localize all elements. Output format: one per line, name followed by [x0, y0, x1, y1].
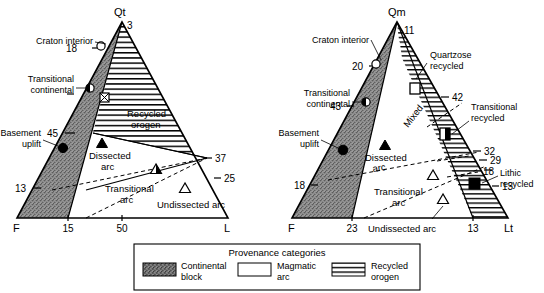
- field-label-recycled-orogen-left-1: Recycled: [127, 108, 166, 119]
- figure-root: Qt 3 18 45 13 15 50 37 25 F L Craton int…: [0, 0, 544, 293]
- callout-quartzose-recycled-1: Quartzose: [430, 50, 472, 60]
- field-label-transitional-arc-right-1: Transitional: [374, 186, 423, 197]
- legend-label-recycled-orogen-2: orogen: [371, 272, 399, 282]
- apex-tick-right: 11: [404, 25, 415, 36]
- callout-basement-uplift-right-2: uplift: [300, 139, 320, 149]
- field-label-undissected-arc-left: Undissected arc: [157, 199, 225, 210]
- field-label-recycled-orogen-left-2: orogen: [131, 119, 161, 130]
- legend: Provenance categories Continental block …: [134, 244, 420, 290]
- undissected-arc-symbol-right: [438, 194, 449, 204]
- field-label-dissected-arc-left-2: arc: [101, 161, 114, 172]
- panel-qt-f-l: Qt 3 18 45 13 15 50 37 25 F L Craton int…: [0, 6, 235, 234]
- field-label-dissected-arc-right-1: Dissected: [365, 152, 407, 163]
- undissected-arc-symbol-left: [180, 183, 191, 193]
- vertex-label-l: L: [224, 222, 230, 234]
- field-label-mixed: Mixed: [401, 102, 425, 129]
- callout-quartzose-recycled-2: recycled: [430, 61, 464, 71]
- legend-label-continental-block-2: block: [181, 272, 203, 282]
- dissected-arc-symbol-right: [380, 140, 391, 150]
- callout-basement-uplift-left-2: uplift: [22, 139, 42, 149]
- callout-transitional-recycled-1: Transitional: [471, 102, 517, 112]
- callout-transitional-continental-left-2: continental: [30, 85, 74, 95]
- provenance-ternary-figure: Qt 3 18 45 13 15 50 37 25 F L Craton int…: [0, 0, 544, 293]
- dissected-arc-symbol-left: [97, 138, 108, 148]
- transitional-arc-symbol-left: [151, 164, 162, 174]
- tick-29-right: 29: [490, 155, 502, 166]
- apex-tick-left: 3: [127, 20, 133, 31]
- field-label-transitional-arc-left-1: Transitional: [105, 183, 154, 194]
- tick-15-left: 15: [62, 223, 74, 234]
- field-label-dissected-arc-left-1: Dissected: [89, 150, 131, 161]
- callout-transitional-continental-right-2: continental: [306, 99, 350, 109]
- legend-label-magmatic-arc-2: arc: [277, 272, 290, 282]
- legend-label-recycled-orogen-1: Recycled: [371, 261, 408, 271]
- panel-qm-f-lt: Qm 11 20 43 18 23 13 42 32 29 18 13 F Lt…: [278, 6, 533, 234]
- tick-45-left: 45: [47, 128, 59, 139]
- tick-13-base-right: 13: [467, 223, 479, 234]
- tick-42-right: 42: [452, 92, 464, 103]
- legend-swatch-recycled-orogen: [332, 263, 365, 276]
- legend-label-magmatic-arc-1: Magmatic: [277, 261, 317, 271]
- vertex-label-lt: Lt: [504, 222, 513, 234]
- basement-uplift-symbol-left: [58, 143, 67, 152]
- vertex-label-qm: Qm: [388, 6, 406, 18]
- vertex-label-qt: Qt: [114, 6, 126, 18]
- tick-18-left-axis-right: 18: [294, 180, 306, 191]
- transitional-continental-symbol-right: [362, 98, 370, 106]
- tick-23-right: 23: [346, 223, 358, 234]
- transitional-continental-symbol-left: [86, 84, 94, 92]
- lithic-recycled-symbol-right: [469, 178, 480, 189]
- vertex-label-f-left: F: [13, 222, 20, 234]
- field-label-transitional-arc-left-2: arc: [120, 194, 133, 205]
- callout-basement-uplift-right-1: Basement: [278, 128, 319, 138]
- callout-lithic-recycled-2: recycled: [500, 179, 534, 189]
- tick-25-left: 25: [224, 173, 236, 184]
- tick-13-left: 13: [15, 183, 27, 194]
- legend-swatch-continental-block: [143, 263, 176, 276]
- callout-lithic-recycled-1: Lithic: [500, 168, 522, 178]
- transitional-arc-symbol-right: [428, 170, 439, 180]
- legend-label-continental-block-1: Continental: [181, 261, 227, 271]
- callout-transitional-recycled-2: recycled: [471, 113, 505, 123]
- transitional-recycled-symbol-right: [440, 128, 450, 140]
- legend-swatch-magmatic-arc: [238, 263, 271, 276]
- legend-title: Provenance categories: [228, 247, 325, 258]
- tick-20-right: 20: [352, 61, 364, 72]
- field-label-transitional-arc-right-2: arc: [392, 197, 405, 208]
- callout-basement-uplift-left-1: Basement: [0, 128, 41, 138]
- quartzose-recycled-symbol-right: [410, 83, 420, 94]
- callout-transitional-continental-left-1: Transitional: [28, 74, 74, 84]
- field-label-undissected-arc-right: Undissected arc: [368, 223, 436, 234]
- field-label-dissected-arc-right-2: arc: [372, 161, 387, 174]
- craton-interior-symbol-right: [372, 60, 380, 68]
- callout-transitional-continental-right-1: Transitional: [304, 88, 350, 98]
- callout-craton-interior-right: Craton interior: [312, 35, 369, 45]
- tick-18-right-axis: 18: [483, 166, 495, 177]
- tick-50-left: 50: [116, 223, 128, 234]
- recycled-orogen-symbol-left: [100, 93, 109, 102]
- basement-uplift-symbol-right: [338, 145, 348, 155]
- vertex-label-f-right: F: [288, 222, 295, 234]
- callout-craton-interior-left: Craton interior: [36, 36, 93, 46]
- tick-37-left: 37: [215, 153, 227, 164]
